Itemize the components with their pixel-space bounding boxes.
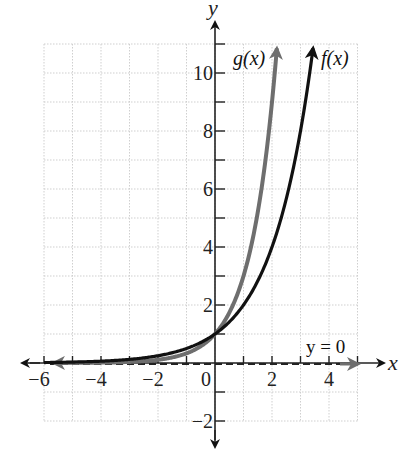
g-label: g(x) <box>233 47 266 70</box>
x-axis-label: x <box>387 350 398 375</box>
y-tick-label: 10 <box>193 62 213 84</box>
y-tick-label: −2 <box>192 410 213 432</box>
y-tick-label: 4 <box>203 236 213 258</box>
y-tick-label: 2 <box>203 294 213 316</box>
asymptote-label: y = 0 <box>306 336 345 357</box>
f-label: f(x) <box>321 47 349 70</box>
x-tick-label: 0 <box>201 368 211 390</box>
x-tick-label: −6 <box>28 368 49 390</box>
exponential-graph: −6−4−2024108642−2 x y g(x) f(x) y = 0 <box>0 0 405 457</box>
x-tick-label: 4 <box>324 368 334 390</box>
x-tick-label: −2 <box>142 368 163 390</box>
y-tick-label: 6 <box>203 178 213 200</box>
y-tick-label: 8 <box>203 120 213 142</box>
x-tick-label: 2 <box>267 368 277 390</box>
g-curve <box>73 48 277 362</box>
y-axis-label: y <box>206 0 218 20</box>
x-tick-label: −4 <box>85 368 106 390</box>
